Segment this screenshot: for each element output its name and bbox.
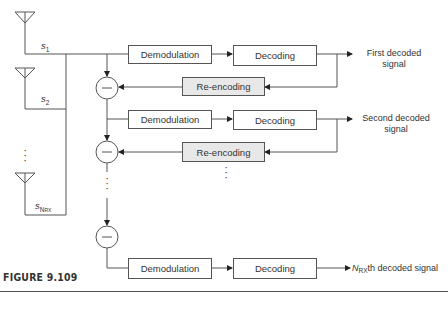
caption-rule	[0, 291, 448, 292]
figure-caption: FIGURE 9.109	[3, 271, 78, 284]
decoding-block-1: Decoding	[233, 45, 317, 66]
block-label: Re-encoding	[197, 81, 251, 92]
reencoding-block-2: Re-encoding	[182, 142, 265, 162]
demodulation-block-1: Demodulation	[128, 45, 212, 64]
decoding-block-n: Decoding	[233, 258, 317, 279]
block-label: Demodulation	[141, 263, 200, 274]
demodulation-block-2: Demodulation	[128, 110, 212, 129]
antenna-icon-n	[15, 173, 35, 215]
output-label-nrx: NRXth decoded signal	[352, 263, 438, 276]
chain-ellipsis: ···	[104, 176, 110, 191]
decoding-block-2: Decoding	[233, 110, 317, 130]
signal-label-s1: s1	[41, 40, 49, 55]
antenna-icon-1	[15, 12, 35, 54]
output-label-first: First decodedsignal	[356, 48, 432, 70]
reencode-ellipsis: ···	[223, 165, 229, 180]
block-label: Decoding	[255, 263, 295, 274]
block-label: Re-encoding	[197, 147, 251, 158]
reencoding-block-1: Re-encoding	[182, 77, 265, 96]
block-label: Decoding	[255, 115, 295, 126]
signal-label-s2: s2	[41, 93, 49, 108]
block-label: Demodulation	[141, 49, 200, 60]
block-label: Decoding	[255, 50, 295, 61]
output-label-second: Second decodedsignal	[354, 113, 438, 135]
antenna-ellipsis: ···	[22, 148, 28, 163]
block-label: Demodulation	[141, 114, 200, 125]
signal-label-snrx: sNRX	[35, 200, 51, 216]
antenna-icon-2	[15, 68, 35, 109]
demodulation-block-n: Demodulation	[128, 258, 212, 279]
